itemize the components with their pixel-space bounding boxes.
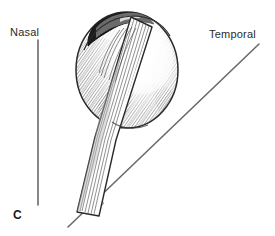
anatomical-figure-panel: Nasal Temporal C: [0, 0, 275, 236]
panel-letter: C: [13, 209, 22, 222]
label-nasal: Nasal: [10, 26, 39, 38]
label-temporal: Temporal: [209, 28, 256, 40]
